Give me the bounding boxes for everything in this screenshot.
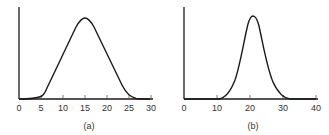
tick-label: 10	[212, 103, 222, 113]
panel-a: 0 5 10 15 20 25 30 (a)	[16, 7, 156, 131]
tick-label: 5	[38, 103, 43, 113]
x-tick-labels-b: 0 10 20 30 40	[181, 103, 321, 113]
x-tick-labels-a: 0 5 10 15 20 25 30	[16, 103, 156, 113]
tick-label: 20	[245, 103, 255, 113]
tick-label: 10	[58, 103, 68, 113]
tick-label: 40	[311, 103, 321, 113]
tick-label: 0	[181, 103, 186, 113]
distribution-curve-b	[184, 16, 316, 99]
tick-label: 15	[80, 103, 90, 113]
distribution-curve-a	[19, 18, 150, 99]
tick-label: 30	[146, 103, 156, 113]
panel-label-b: (b)	[248, 121, 259, 131]
tick-label: 25	[124, 103, 134, 113]
tick-label: 20	[102, 103, 112, 113]
tick-label: 0	[16, 103, 21, 113]
panel-label-a: (a)	[84, 121, 95, 131]
panel-b: 0 10 20 30 40 (b)	[181, 7, 321, 131]
tick-label: 30	[278, 103, 288, 113]
figure: 0 5 10 15 20 25 30 (a) 0 10 20 30 40 (b)	[0, 0, 329, 135]
